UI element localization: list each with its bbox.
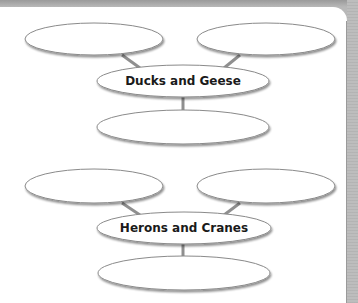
connector-line [122,203,140,215]
connector-line [122,55,140,68]
connector-line [224,55,240,68]
bottom-bubble[interactable] [98,256,270,290]
center-bubble-label: Herons and Cranes [97,221,271,235]
concept-map [0,0,358,303]
top-right-bubble[interactable] [197,169,335,203]
top-left-bubble[interactable] [25,23,163,55]
top-left-bubble[interactable] [25,169,163,203]
top-right-bubble[interactable] [197,23,335,55]
connector-line [224,203,240,215]
bottom-bubble[interactable] [97,110,269,144]
center-bubble-label: Ducks and Geese [97,74,269,88]
